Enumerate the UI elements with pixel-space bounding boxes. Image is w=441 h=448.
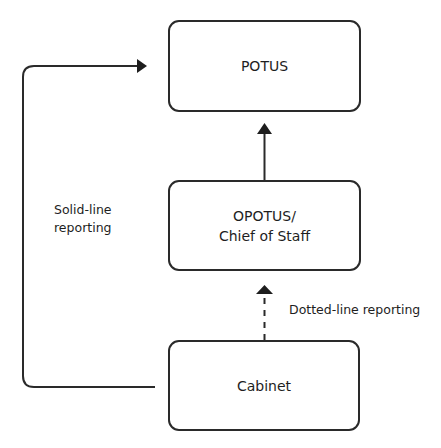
arrowhead-right-icon: [137, 59, 147, 73]
solid-line-label-line1: Solid-line: [54, 201, 112, 219]
solid-line-label-line2: reporting: [54, 219, 112, 237]
node-opotus-label-line1: OPOTUS/: [233, 206, 296, 226]
node-cabinet-label: Cabinet: [237, 376, 291, 396]
arrowhead-up-icon: [256, 285, 273, 294]
solid-line-reporting-label: Solid-line reporting: [54, 201, 112, 237]
dotted-line-reporting-label: Dotted-line reporting: [289, 301, 420, 319]
node-potus-label: POTUS: [241, 56, 288, 76]
node-opotus-chief-of-staff: OPOTUS/ Chief of Staff: [168, 180, 361, 271]
node-opotus-label-line2: Chief of Staff: [219, 226, 310, 246]
node-cabinet: Cabinet: [168, 340, 360, 431]
arrowhead-up-icon: [257, 123, 272, 134]
node-potus: POTUS: [168, 20, 361, 112]
